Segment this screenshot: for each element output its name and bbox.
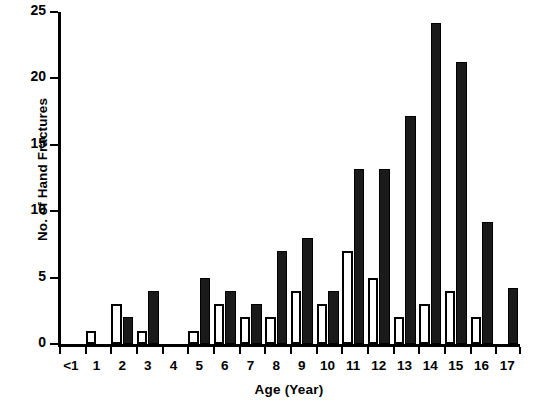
bar-open [86, 331, 97, 344]
y-tick-mark [50, 11, 58, 13]
bar-filled [328, 291, 339, 344]
x-tick-label: 11 [346, 358, 360, 373]
y-tick: 20 [50, 77, 58, 79]
y-axis-line [58, 12, 61, 344]
bar-open [137, 331, 148, 344]
x-tick-mark [162, 347, 164, 354]
y-tick-label: 5 [38, 268, 46, 284]
x-tick-mark [264, 347, 266, 354]
y-tick-mark [50, 144, 58, 146]
y-tick-mark [50, 77, 58, 79]
x-axis-title: Age (Year) [58, 382, 520, 397]
y-tick-label: 20 [30, 68, 46, 84]
bar-open [111, 304, 122, 344]
x-tick-label: 5 [195, 358, 203, 373]
bar-open [445, 291, 456, 344]
x-tick-mark [59, 347, 61, 354]
x-tick-label: 15 [448, 358, 463, 373]
x-tick-mark [187, 347, 189, 354]
bar-filled [456, 62, 467, 344]
bar-filled [508, 288, 519, 344]
bar-filled [302, 238, 313, 344]
plot-area: 0510152025 <11234567891011121314151617 [58, 12, 520, 344]
x-tick-mark [444, 347, 446, 354]
bar-open [214, 304, 225, 344]
bar-filled [431, 23, 442, 344]
bar-filled [123, 317, 134, 344]
x-tick-label: 13 [397, 358, 412, 373]
y-tick: 15 [50, 144, 58, 146]
x-tick-label: 17 [500, 358, 515, 373]
x-tick-mark [341, 347, 343, 354]
bar-filled [379, 169, 390, 344]
x-tick-mark [367, 347, 369, 354]
x-tick-label: 3 [144, 358, 152, 373]
x-tick-label: 16 [474, 358, 489, 373]
bar-open [471, 317, 482, 344]
chart-figure: No. of Hand Fractures 0510152025 <112345… [0, 0, 539, 408]
y-tick: 25 [50, 11, 58, 13]
bar-filled [277, 251, 288, 344]
x-tick-mark [136, 347, 138, 354]
x-tick-label: 1 [93, 358, 101, 373]
bar-open [368, 278, 379, 344]
x-tick-mark [85, 347, 87, 354]
x-tick-label: 12 [371, 358, 386, 373]
bar-open [291, 291, 302, 344]
y-tick: 5 [50, 277, 58, 279]
bar-filled [251, 304, 262, 344]
bar-filled [200, 278, 211, 344]
x-tick-mark [213, 347, 215, 354]
x-tick-mark [239, 347, 241, 354]
bar-filled [148, 291, 159, 344]
y-tick-label: 10 [30, 201, 46, 217]
x-tick-mark [290, 347, 292, 354]
x-tick-label: <1 [63, 358, 78, 373]
y-tick-mark [50, 277, 58, 279]
bar-open [394, 317, 405, 344]
y-tick: 10 [50, 210, 58, 212]
y-tick-label: 25 [30, 2, 46, 18]
bar-open [240, 317, 251, 344]
x-tick-label: 8 [272, 358, 280, 373]
y-tick-label: 0 [38, 334, 46, 350]
y-tick-mark [50, 210, 58, 212]
bar-open [342, 251, 353, 344]
x-tick-mark [519, 347, 521, 354]
x-tick-mark [418, 347, 420, 354]
bar-open [188, 331, 199, 344]
bar-filled [225, 291, 236, 344]
y-tick: 0 [50, 343, 58, 345]
x-tick-label: 6 [221, 358, 229, 373]
bar-open [317, 304, 328, 344]
bar-filled [405, 116, 416, 344]
x-tick-label: 4 [170, 358, 178, 373]
bar-filled [354, 169, 365, 344]
bar-filled [482, 222, 493, 344]
x-tick-label: 2 [118, 358, 126, 373]
x-tick-label: 9 [298, 358, 306, 373]
y-tick-mark [50, 343, 58, 345]
x-tick-label: 10 [320, 358, 335, 373]
x-tick-mark [393, 347, 395, 354]
bar-open [419, 304, 430, 344]
x-tick-mark [316, 347, 318, 354]
bar-open [265, 317, 276, 344]
x-tick-mark [495, 347, 497, 354]
x-tick-mark [110, 347, 112, 354]
x-tick-mark [470, 347, 472, 354]
y-tick-label: 15 [30, 135, 46, 151]
x-axis-line [58, 344, 520, 347]
x-tick-label: 7 [247, 358, 255, 373]
x-tick-label: 14 [423, 358, 438, 373]
